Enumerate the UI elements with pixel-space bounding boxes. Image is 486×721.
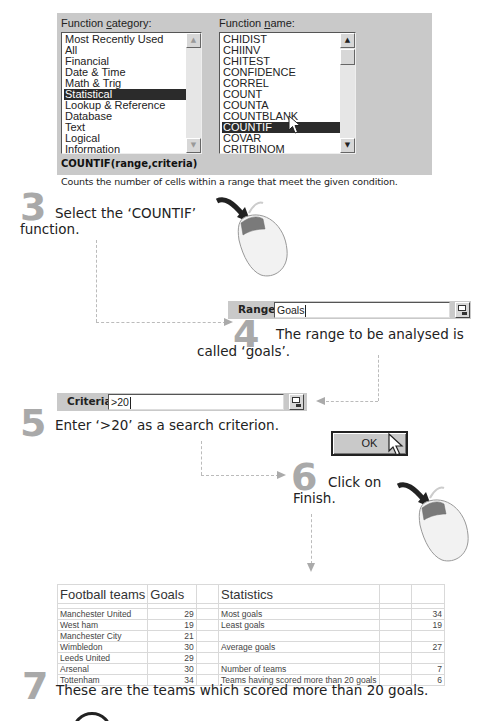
criteria-field-row: Criteria >20 bbox=[57, 393, 307, 411]
mouse-click-illustration bbox=[215, 195, 295, 280]
step-7-number: 7 bbox=[22, 667, 46, 705]
table-row: Leeds United29 bbox=[58, 653, 445, 664]
sheet-cell[interactable] bbox=[379, 642, 411, 653]
function-item[interactable]: CRITBINOM bbox=[222, 144, 341, 155]
collapse-dialog-button[interactable] bbox=[289, 394, 304, 410]
table-row: West ham19Least goals19 bbox=[58, 620, 445, 631]
mouse-pointer-icon bbox=[388, 433, 406, 457]
connector-line bbox=[201, 475, 279, 476]
sheet-cell[interactable]: 19 bbox=[411, 620, 444, 631]
category-item[interactable]: Information bbox=[64, 144, 188, 155]
sheet-cell[interactable] bbox=[411, 585, 444, 604]
sheet-cell[interactable]: West ham bbox=[58, 620, 148, 631]
sheet-cell[interactable]: Football teams bbox=[58, 585, 148, 604]
sheet-cell[interactable]: Average goals bbox=[219, 642, 379, 653]
sheet-cell[interactable]: 7 bbox=[411, 664, 444, 675]
connector-line bbox=[378, 355, 379, 401]
category-item[interactable]: Most Recently Used bbox=[64, 34, 188, 45]
scroll-up-button[interactable]: ▲ bbox=[340, 33, 355, 48]
sheet-cell[interactable]: Statistics bbox=[219, 585, 379, 604]
scroll-down-button[interactable]: ▼ bbox=[340, 138, 355, 153]
sheet-cell[interactable]: Wimbledon bbox=[58, 642, 148, 653]
results-spreadsheet: Football teamsGoalsStatisticsManchester … bbox=[57, 584, 445, 686]
sheet-cell[interactable] bbox=[379, 631, 411, 642]
sheet-cell[interactable] bbox=[196, 664, 218, 675]
sheet-cell[interactable]: Least goals bbox=[219, 620, 379, 631]
function-name-list[interactable]: CHIDISTCHIINVCHITESTCONFIDENCECORRELCOUN… bbox=[219, 32, 356, 154]
step-6-text-line1: Click on bbox=[328, 473, 381, 491]
function-syntax: COUNTIF(range,criteria) bbox=[61, 158, 197, 169]
sheet-cell[interactable]: 34 bbox=[411, 609, 444, 620]
scroll-up-button[interactable]: ▲ bbox=[186, 33, 201, 48]
scroll-down-button[interactable]: ▼ bbox=[186, 138, 201, 153]
sheet-cell[interactable] bbox=[411, 653, 444, 664]
sheet-cell[interactable] bbox=[411, 631, 444, 642]
step-4-text-line1: The range to be analysed is bbox=[276, 325, 464, 343]
connector-line bbox=[311, 514, 312, 564]
mouse-click-illustration bbox=[396, 480, 486, 565]
connector-line bbox=[201, 441, 202, 475]
function-description: Counts the number of cells within a rang… bbox=[61, 176, 398, 187]
mouse-pointer-icon bbox=[288, 115, 302, 135]
sheet-cell[interactable] bbox=[379, 664, 411, 675]
step-3-text-line2: function. bbox=[20, 220, 79, 238]
table-row: Manchester United29Most goals34 bbox=[58, 609, 445, 620]
sheet-cell[interactable]: 29 bbox=[148, 653, 196, 664]
function-name-label: Function name: bbox=[219, 17, 295, 29]
arrow-right-icon bbox=[224, 318, 233, 326]
sheet-cell[interactable] bbox=[196, 653, 218, 664]
sheet-cell[interactable]: 19 bbox=[148, 620, 196, 631]
function-scrollbar[interactable]: ▲ ▼ bbox=[340, 33, 355, 153]
arrow-left-icon bbox=[316, 397, 325, 405]
function-category-list[interactable]: Most Recently UsedAllFinancialDate & Tim… bbox=[61, 32, 202, 154]
sheet-cell[interactable] bbox=[196, 642, 218, 653]
sheet-cell[interactable]: Goals bbox=[148, 585, 196, 604]
sheet-cell[interactable]: 29 bbox=[148, 609, 196, 620]
collapse-dialog-button[interactable] bbox=[455, 302, 470, 318]
sheet-cell[interactable]: 30 bbox=[148, 642, 196, 653]
criteria-input[interactable]: >20 bbox=[108, 394, 284, 410]
tip-badge-icon bbox=[72, 712, 112, 721]
sheet-cell[interactable]: Manchester City bbox=[58, 631, 148, 642]
sheet-header-row: Football teamsGoalsStatistics bbox=[58, 585, 445, 604]
category-scrollbar[interactable]: ▲ ▼ bbox=[186, 33, 201, 153]
table-row: Wimbledon30Average goals27 bbox=[58, 642, 445, 653]
connector-line bbox=[96, 240, 97, 322]
function-category-label: Function category: bbox=[61, 17, 152, 29]
step-5-number: 5 bbox=[20, 404, 44, 442]
step-7-text: These are the teams which scored more th… bbox=[56, 681, 428, 699]
sheet-cell[interactable]: 21 bbox=[148, 631, 196, 642]
sheet-cell[interactable]: Most goals bbox=[219, 609, 379, 620]
step-4-text-line2: called ‘goals’. bbox=[197, 342, 290, 360]
connector-line bbox=[326, 401, 378, 402]
sheet-cell[interactable] bbox=[379, 653, 411, 664]
sheet-cell[interactable] bbox=[379, 609, 411, 620]
table-row: Arsenal30Number of teams7 bbox=[58, 664, 445, 675]
sheet-cell[interactable]: Number of teams bbox=[219, 664, 379, 675]
sheet-cell[interactable] bbox=[379, 585, 411, 604]
sheet-cell[interactable]: Leeds United bbox=[58, 653, 148, 664]
sheet-cell[interactable]: 30 bbox=[148, 664, 196, 675]
scroll-thumb[interactable] bbox=[340, 49, 355, 65]
sheet-cell[interactable] bbox=[379, 620, 411, 631]
sheet-cell[interactable] bbox=[196, 620, 218, 631]
sheet-cell[interactable] bbox=[196, 585, 218, 604]
sheet-cell[interactable] bbox=[196, 609, 218, 620]
arrow-down-icon bbox=[307, 563, 315, 572]
table-row: Manchester City21 bbox=[58, 631, 445, 642]
sheet-cell[interactable]: Manchester United bbox=[58, 609, 148, 620]
arrow-right-icon bbox=[277, 471, 286, 479]
criteria-label: Criteria bbox=[67, 395, 112, 407]
sheet-cell[interactable]: Arsenal bbox=[58, 664, 148, 675]
sheet-cell[interactable] bbox=[219, 631, 379, 642]
range-input[interactable]: Goals bbox=[274, 302, 450, 318]
sheet-cell[interactable] bbox=[196, 631, 218, 642]
sheet-cell[interactable]: 27 bbox=[411, 642, 444, 653]
step-6-text-line2: Finish. bbox=[293, 489, 336, 507]
step-5-text: Enter ‘>20’ as a search criterion. bbox=[55, 416, 279, 434]
sheet-cell[interactable] bbox=[219, 653, 379, 664]
connector-line bbox=[96, 322, 226, 323]
insert-function-dialog: Function category: Function name: Most R… bbox=[57, 13, 432, 175]
range-field-row: Range Goals bbox=[228, 301, 471, 319]
